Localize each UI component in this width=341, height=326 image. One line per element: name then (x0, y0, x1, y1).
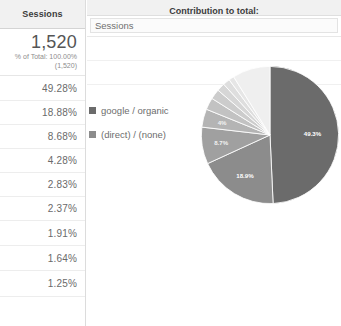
row-percent: 18.88% (42, 107, 77, 118)
legend-swatch-icon (89, 131, 96, 138)
row-percent: 4.28% (48, 155, 77, 166)
table-row[interactable]: 4.28% (0, 149, 85, 173)
row-rule (87, 60, 341, 61)
table-row[interactable]: 49.28% (0, 76, 85, 101)
chart-pane: Contribution to total: Sessions google /… (87, 0, 341, 326)
row-percent: 49.28% (42, 83, 77, 94)
row-percent: 1.91% (48, 228, 77, 239)
table-row[interactable]: 8.68% (0, 125, 85, 149)
metric-select-value: Sessions (95, 20, 134, 31)
pie-slice-label: 49.3% (304, 130, 322, 137)
legend-swatch-icon (89, 107, 96, 114)
column-header-label: Sessions (22, 9, 62, 19)
contribution-header: Contribution to total: (87, 0, 341, 16)
percent-of-total-label: % of Total: 100.00% (0, 52, 77, 61)
pie-chart-svg: 49.3%18.9%8.7%4% (199, 64, 341, 206)
total-summary-cell: 1,520 % of Total: 100.00% (1,520) (0, 29, 85, 76)
percent-of-total-value: (1,520) (0, 61, 77, 70)
table-row[interactable]: 2.83% (0, 173, 85, 197)
legend-label: google / organic (101, 105, 169, 116)
total-value: 1,520 (0, 33, 77, 52)
legend-item[interactable]: google / organic (89, 98, 209, 122)
column-header-sessions[interactable]: Sessions (0, 0, 85, 29)
contribution-to-total-widget: Sessions 1,520 % of Total: 100.00% (1,52… (0, 0, 341, 326)
table-row[interactable]: 2.37% (0, 197, 85, 221)
row-percent: 2.83% (48, 179, 77, 190)
table-row[interactable]: 1.25% (0, 271, 85, 297)
legend-item[interactable]: (direct) / (none) (89, 122, 209, 146)
contribution-header-label: Contribution to total: (169, 6, 258, 16)
row-percent: 1.25% (48, 278, 77, 289)
metric-select[interactable]: Sessions (90, 18, 338, 33)
pane-divider (87, 36, 341, 37)
table-row[interactable]: 1.91% (0, 221, 85, 246)
row-percent: 2.37% (48, 203, 77, 214)
pie-slice-label: 8.7% (214, 139, 229, 146)
table-row[interactable]: 1.64% (0, 246, 85, 271)
row-percent: 8.68% (48, 131, 77, 142)
pie-chart[interactable]: 49.3%18.9%8.7%4% (199, 64, 341, 206)
legend-label: (direct) / (none) (101, 129, 166, 140)
chart-legend: google / organic (direct) / (none) (89, 98, 209, 146)
metric-table-column: Sessions 1,520 % of Total: 100.00% (1,52… (0, 0, 86, 326)
row-percent: 1.64% (48, 253, 77, 264)
pie-slice-label: 18.9% (236, 172, 254, 179)
pie-slice-label: 4% (218, 119, 227, 126)
table-row[interactable]: 18.88% (0, 101, 85, 125)
